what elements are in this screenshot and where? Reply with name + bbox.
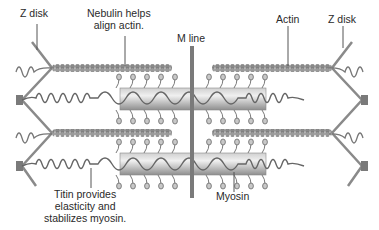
- label-m-line: M line: [177, 32, 205, 44]
- z-disk-right: [332, 42, 368, 186]
- label-nebulin-line2: align actin.: [87, 19, 151, 31]
- z-disk-left: [16, 42, 52, 186]
- label-z-disk-left: Z disk: [20, 7, 48, 19]
- label-titin-line3: stabilizes myosin.: [44, 212, 126, 224]
- label-z-disk-right: Z disk: [328, 13, 356, 25]
- label-titin-line2: elasticity and: [44, 200, 126, 212]
- m-line: [190, 46, 194, 198]
- label-titin: Titin provides elasticity and stabilizes…: [44, 188, 126, 224]
- label-nebulin-line1: Nebulin helps: [87, 7, 151, 19]
- sarcomere-diagram: Z disk Nebulin helps align actin. M line…: [0, 0, 379, 230]
- label-myosin: Myosin: [216, 190, 249, 202]
- label-actin: Actin: [276, 13, 299, 25]
- label-titin-line1: Titin provides: [44, 188, 126, 200]
- label-nebulin: Nebulin helps align actin.: [87, 7, 151, 31]
